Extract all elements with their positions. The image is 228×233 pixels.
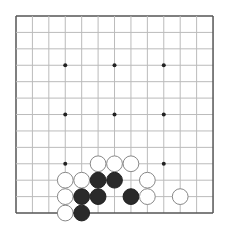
white-stone	[172, 189, 188, 205]
star-point-icon	[63, 113, 67, 117]
black-stone	[74, 189, 90, 205]
white-stone	[139, 189, 155, 205]
black-stone	[107, 172, 123, 188]
white-stone	[57, 172, 73, 188]
star-point-icon	[162, 63, 166, 67]
black-stone	[74, 205, 90, 221]
star-point-icon	[113, 63, 117, 67]
white-stone	[139, 172, 155, 188]
black-stone	[90, 189, 106, 205]
white-stone	[107, 156, 123, 172]
white-stone	[57, 189, 73, 205]
star-point-icon	[162, 113, 166, 117]
black-stone	[90, 172, 106, 188]
white-stone	[90, 156, 106, 172]
black-stone	[123, 189, 139, 205]
star-point-icon	[63, 63, 67, 67]
white-stone	[123, 156, 139, 172]
star-point-icon	[162, 162, 166, 166]
star-point-icon	[113, 113, 117, 117]
star-point-icon	[63, 162, 67, 166]
stones-layer	[57, 156, 188, 221]
white-stone	[57, 205, 73, 221]
go-board[interactable]	[0, 0, 228, 233]
white-stone	[74, 172, 90, 188]
